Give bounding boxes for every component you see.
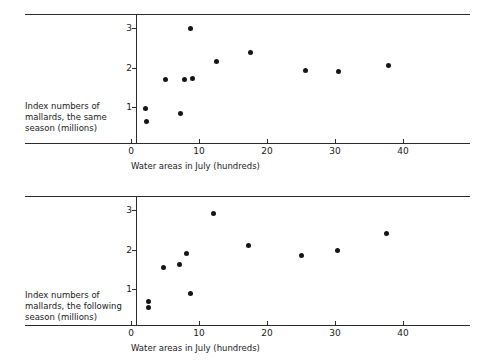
panel-following-season: 123010203040 Index numbers of mallards, … (0, 182, 487, 363)
y-axis-title-line-1: Index numbers of (25, 101, 135, 112)
x-axis-tick (199, 139, 200, 143)
x-axis-tick (335, 321, 336, 325)
y-axis-tick-label-text: 3 (118, 206, 132, 215)
y-axis-tick-label: 2 (112, 64, 132, 73)
x-axis-tick-label: 10 (189, 329, 209, 338)
x-axis-tick-label: 40 (393, 147, 413, 156)
y-axis-tick-label: 3 (112, 24, 132, 33)
x-axis-tick-label: 30 (325, 147, 345, 156)
data-point (190, 76, 195, 81)
x-axis-tick (267, 139, 268, 143)
x-axis-tick-label: 10 (189, 147, 209, 156)
y-axis-tick (132, 250, 137, 251)
y-axis-tick-label: 3 (112, 206, 132, 215)
x-axis-tick-label: 40 (393, 329, 413, 338)
data-point (146, 305, 151, 310)
data-point (144, 119, 149, 124)
y-axis-title-line-2: mallards, the same (25, 112, 135, 123)
y-axis-tick (132, 28, 137, 29)
plot-area-bottom: 123010203040 (0, 182, 487, 363)
x-axis-tick-label: 0 (121, 147, 141, 156)
data-point (178, 111, 183, 116)
y-axis-tick-label-text: 2 (118, 64, 132, 73)
data-point (246, 243, 251, 248)
data-point (188, 291, 193, 296)
x-axis-tick (199, 321, 200, 325)
data-point (248, 50, 253, 55)
data-point (161, 265, 166, 270)
x-axis-tick (403, 321, 404, 325)
data-point (184, 251, 189, 256)
data-point (299, 253, 304, 258)
data-point (211, 211, 216, 216)
data-point (303, 68, 308, 73)
data-point (188, 26, 193, 31)
x-axis-tick-label: 20 (257, 147, 277, 156)
x-axis-tick (335, 139, 336, 143)
x-axis-title-top: Water areas in July (hundreds) (131, 161, 260, 171)
y-axis-title-line-3: season (millions) (25, 123, 135, 134)
panel-same-season: 123010203040 Index numbers of mallards, … (0, 0, 487, 181)
y-axis-tick-label-text: 3 (118, 24, 132, 33)
x-axis-tick (131, 139, 132, 143)
data-point (214, 59, 219, 64)
y-axis-title-line-1: Index numbers of (25, 290, 135, 301)
scatter-plot-figure: 123010203040 Index numbers of mallards, … (0, 0, 487, 363)
y-axis-title-line-3: season (millions) (25, 312, 135, 323)
y-axis-title-line-2: mallards, the following (25, 301, 135, 312)
data-point (143, 106, 148, 111)
data-point (182, 77, 187, 82)
x-axis-tick-label: 0 (121, 329, 141, 338)
data-point (336, 69, 341, 74)
data-point (384, 231, 389, 236)
data-point (163, 77, 168, 82)
data-point (386, 63, 391, 68)
y-axis-title-top: Index numbers of mallards, the same seas… (25, 101, 135, 134)
y-axis-tick-label: 2 (112, 246, 132, 255)
x-axis-tick-label: 30 (325, 329, 345, 338)
y-axis-tick (132, 68, 137, 69)
plot-area-top: 123010203040 (0, 0, 487, 181)
y-axis-title-bottom: Index numbers of mallards, the following… (25, 290, 135, 323)
y-axis-tick (132, 210, 137, 211)
x-axis-tick (403, 139, 404, 143)
data-point (177, 262, 182, 267)
data-point (146, 299, 151, 304)
x-axis-tick-label: 20 (257, 329, 277, 338)
x-axis-title-bottom: Water areas in July (hundreds) (131, 343, 260, 353)
x-axis-tick (267, 321, 268, 325)
y-axis-tick-label-text: 2 (118, 246, 132, 255)
data-point (335, 248, 340, 253)
